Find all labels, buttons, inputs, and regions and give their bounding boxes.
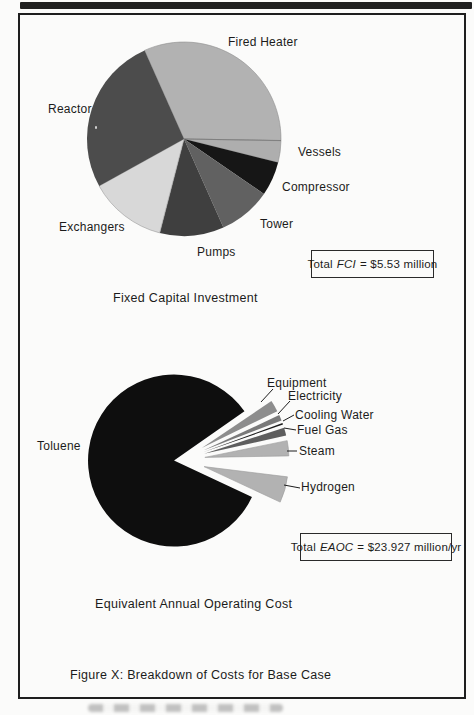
fci-total-value: = $5.53 million xyxy=(360,258,437,270)
fci-total-box: Total FCI = $5.53 million xyxy=(311,250,434,278)
scanned-figure-page: Fired HeaterVesselsCompressorTowerPumpsE… xyxy=(0,0,474,715)
eaoc-total-prefix: Total xyxy=(291,541,316,553)
pie-label-steam: Steam xyxy=(299,445,335,458)
pie-label-vessels: Vessels xyxy=(298,146,341,159)
pie-label-hydrogen: Hydrogen xyxy=(301,481,355,494)
pie-label-fired-heater: Fired Heater xyxy=(228,36,298,49)
fci-total-term: FCI xyxy=(337,258,356,270)
pie-label-tower: Tower xyxy=(260,218,293,231)
eaoc-total-value: = $23.927 million/yr xyxy=(357,541,461,553)
pie-label-cooling-water: Cooling Water xyxy=(295,409,374,422)
pie-label-reactor: Reactor xyxy=(48,103,92,116)
pie-label-exchangers: Exchangers xyxy=(59,221,125,234)
pie-label-fuel-gas: Fuel Gas xyxy=(297,424,348,437)
scan-speck xyxy=(95,126,97,129)
pie-label-electricity: Electricity xyxy=(288,390,342,403)
fci-total-prefix: Total xyxy=(308,258,333,270)
pie-label-compressor: Compressor xyxy=(282,181,350,194)
scan-artifact-ghost-text xyxy=(88,704,283,712)
eaoc-total-term: EAOC xyxy=(320,541,353,553)
eaoc-chart-title: Equivalent Annual Operating Cost xyxy=(95,597,292,611)
fci-chart-title: Fixed Capital Investment xyxy=(113,291,258,305)
figure-caption: Figure X: Breakdown of Costs for Base Ca… xyxy=(70,668,331,682)
eaoc-total-box: Total EAOC = $23.927 million/yr xyxy=(300,533,452,561)
pie-label-pumps: Pumps xyxy=(197,246,236,259)
pie-label-toluene: Toluene xyxy=(37,440,81,453)
